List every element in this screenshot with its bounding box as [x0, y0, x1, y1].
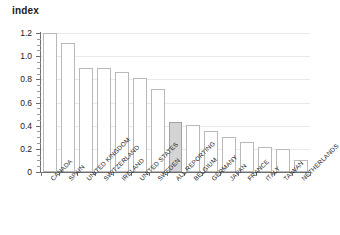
y-tick-label: 1.0 [4, 51, 32, 61]
chart-title: index [12, 5, 39, 16]
x-tick [41, 172, 42, 176]
y-tick-label: 0.2 [4, 144, 32, 154]
y-tick-label: 0 [4, 167, 32, 177]
bar-series [41, 33, 310, 172]
bar-spain[interactable] [61, 43, 75, 172]
y-tick-label: 0.4 [4, 121, 32, 131]
y-tick-label: 0.6 [4, 98, 32, 108]
bar-canada[interactable] [43, 33, 57, 172]
y-tick-label: 0.8 [4, 74, 32, 84]
bar-united-kingdom[interactable] [79, 68, 93, 172]
y-tick-label: 1.2 [4, 28, 32, 38]
